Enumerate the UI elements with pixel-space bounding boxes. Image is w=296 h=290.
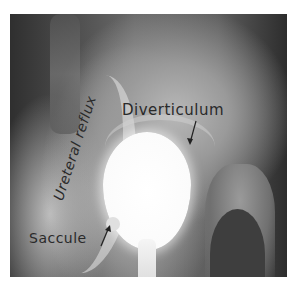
saccule-arrow-icon xyxy=(0,0,296,290)
